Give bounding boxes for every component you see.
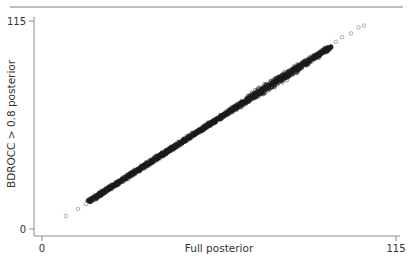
- outlier-point: [340, 35, 344, 39]
- y-tick-label-115: 115: [7, 16, 26, 27]
- outlier-point: [76, 207, 80, 211]
- scatter-chart: 115 0 BDROCC > 0.8 posterior 0 115 Full …: [0, 0, 409, 267]
- x-tick-label-0: 0: [39, 243, 45, 254]
- x-axis: 0 115 Full posterior: [34, 236, 406, 254]
- outlier-point: [334, 40, 338, 44]
- y-axis-title: BDROCC > 0.8 posterior: [5, 59, 17, 188]
- y-tick-label-0: 0: [20, 224, 26, 235]
- y-axis: 115 0 BDROCC > 0.8 posterior: [5, 16, 34, 237]
- outlier-point: [84, 202, 88, 206]
- outlier-point: [357, 26, 361, 30]
- x-tick-label-115: 115: [386, 243, 405, 254]
- outlier-point: [349, 32, 353, 36]
- outlier-point: [64, 214, 68, 218]
- x-axis-title: Full posterior: [185, 242, 254, 254]
- plot-area: [64, 24, 366, 218]
- outlier-point: [362, 24, 366, 28]
